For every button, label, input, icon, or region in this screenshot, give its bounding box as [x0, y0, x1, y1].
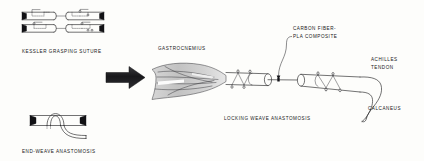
surgical-tendon-repair-figure: KESSLER GRASPING SUTURE END-WEAVE ANASTO…: [0, 0, 424, 161]
calcaneus-label: CALCANEUS: [368, 106, 401, 111]
achilles-tendon-label-line-2: TENDON: [371, 65, 394, 70]
suture-knot: [325, 88, 327, 90]
process-arrow: [106, 67, 145, 89]
graft-leader-line: [279, 37, 293, 77]
kessler-row-2: [22, 22, 104, 32]
graft-label-line-2: PLA COMPOSITE: [293, 34, 337, 39]
end-weave-caption: END-WEAVE ANASTOMOSIS: [22, 149, 96, 154]
calcaneus-bone: [360, 77, 382, 122]
gastrocnemius-muscle: [152, 63, 226, 99]
graft-leader-arrowhead: [277, 75, 281, 80]
suture-knot: [332, 73, 334, 75]
achilles-tendon-label-line-1: ACHILLES: [371, 57, 398, 62]
locking-weave-caption: LOCKING WEAVE ANASTOMOSIS: [224, 116, 311, 121]
suture-knot: [317, 72, 319, 74]
suture-knot: [249, 70, 251, 72]
gastrocnemius-label: GASTROCNEMIUS: [158, 46, 206, 51]
figure-canvas: KESSLER GRASPING SUTURE END-WEAVE ANASTO…: [0, 0, 424, 161]
graft-label-line-1: CARBON FIBER-: [293, 26, 336, 31]
suture-knot: [339, 89, 341, 91]
suture-knot: [243, 86, 245, 88]
locking-weave-anastomosis-diagram: GASTROCNEMIUS: [152, 26, 401, 122]
kessler-caption: KESSLER GRASPING SUTURE: [22, 49, 102, 54]
carbon-fiber-pla-composite-graft: [268, 78, 298, 81]
kessler-row-1: [22, 9, 104, 19]
tendon-cut-face-distal: [297, 74, 304, 86]
suture-knot: [231, 86, 233, 88]
kessler-grasping-suture-diagram: KESSLER GRASPING SUTURE: [22, 9, 104, 54]
suture-knot: [237, 70, 239, 72]
arrow-right-icon: [106, 67, 145, 89]
end-weave-anastomosis-diagram: END-WEAVE ANASTOMOSIS: [22, 114, 96, 155]
